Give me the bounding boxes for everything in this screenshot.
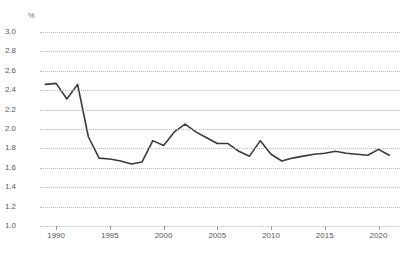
y-axis-tick-label: 1.0 (0, 222, 16, 230)
y-axis-tick-label: 2.0 (0, 125, 16, 133)
y-axis-unit-label: % (28, 11, 35, 20)
gridline (40, 226, 400, 227)
x-axis-tick-label: 2015 (303, 232, 347, 240)
x-axis-tick-mark (271, 226, 272, 230)
series-polyline (45, 83, 389, 164)
y-axis-tick-label: 1.2 (0, 203, 16, 211)
y-axis-tick-label: 2.8 (0, 47, 16, 55)
x-axis-tick-label: 2010 (249, 232, 293, 240)
x-axis-tick-mark (217, 226, 218, 230)
y-axis-tick-label: 3.0 (0, 28, 16, 36)
x-axis-tick-label: 2020 (357, 232, 401, 240)
y-axis-tick-label: 1.8 (0, 144, 16, 152)
y-axis-tick-label: 2.4 (0, 86, 16, 94)
gridline (40, 110, 400, 111)
x-axis-tick-label: 1990 (34, 232, 78, 240)
gridline (40, 187, 400, 188)
gridline (40, 207, 400, 208)
gridline (40, 71, 400, 72)
y-axis-tick-label: 1.4 (0, 183, 16, 191)
gridline (40, 51, 400, 52)
y-axis-tick-label: 2.6 (0, 67, 16, 75)
x-axis-tick-label: 1995 (88, 232, 132, 240)
x-axis-tick-label: 2005 (195, 232, 239, 240)
plot-area: 3.02.82.62.42.22.01.81.61.41.21.01990199… (40, 32, 400, 226)
x-axis-tick-mark (56, 226, 57, 230)
x-axis-tick-mark (110, 226, 111, 230)
gridline (40, 129, 400, 130)
x-axis-tick-mark (379, 226, 380, 230)
x-axis-tick-mark (164, 226, 165, 230)
x-axis-tick-label: 2000 (142, 232, 186, 240)
gridline (40, 148, 400, 149)
y-axis-tick-label: 1.6 (0, 164, 16, 172)
y-axis-tick-label: 2.2 (0, 106, 16, 114)
gridline (40, 32, 400, 33)
x-axis-tick-mark (325, 226, 326, 230)
gridline (40, 90, 400, 91)
gridline (40, 168, 400, 169)
line-chart: % 3.02.82.62.42.22.01.81.61.41.21.019901… (0, 0, 420, 266)
